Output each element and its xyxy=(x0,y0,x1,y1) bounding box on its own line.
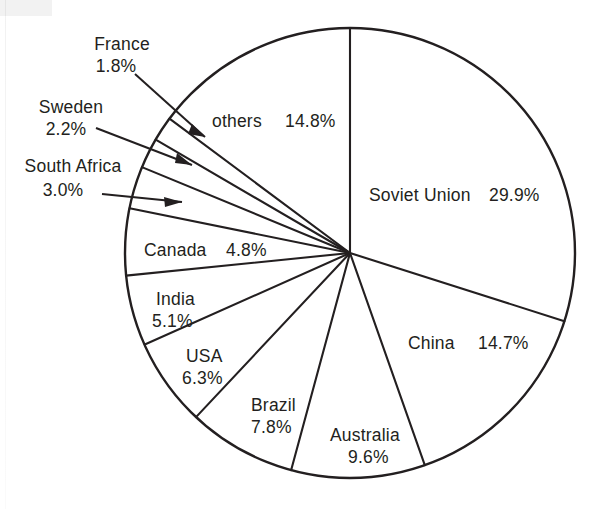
slice-label-usa-name: USA xyxy=(186,346,223,366)
slice-label-australia-name: Australia xyxy=(330,425,400,445)
slice-label-brazil-pct: 7.8% xyxy=(251,417,292,437)
slice-label-india-pct: 5.1% xyxy=(152,311,193,331)
slice-label-sweden-pct: 2.2% xyxy=(46,119,87,139)
slice-label-south-africa-pct: 3.0% xyxy=(43,180,84,200)
slice-label-soviet-name: Soviet Union xyxy=(369,185,471,205)
slice-label-canada-pct: 4.8% xyxy=(226,240,267,260)
slice-label-usa-pct: 6.3% xyxy=(182,368,223,388)
slice-label-others-name: others xyxy=(212,111,262,131)
slice-label-china-pct: 14.7% xyxy=(478,333,529,353)
slice-label-sweden-name: Sweden xyxy=(39,97,103,117)
pie-chart-figure: France 1.8% Sweden 2.2% South Africa 3.0… xyxy=(0,0,598,509)
slice-label-others-pct: 14.8% xyxy=(285,111,336,131)
slice-label-france-pct: 1.8% xyxy=(96,56,137,76)
slice-label-china-name: China xyxy=(408,333,455,353)
slice-label-france-name: France xyxy=(94,34,150,54)
slice-label-south-africa-name: South Africa xyxy=(25,156,122,176)
slice-label-australia-pct: 9.6% xyxy=(348,447,389,467)
slice-label-brazil-name: Brazil xyxy=(251,395,296,415)
slice-label-soviet-pct: 29.9% xyxy=(489,185,540,205)
pie-chart-svg: France 1.8% Sweden 2.2% South Africa 3.0… xyxy=(0,0,598,509)
slice-label-canada-name: Canada xyxy=(144,240,207,260)
slice-label-india-name: India xyxy=(156,289,195,309)
